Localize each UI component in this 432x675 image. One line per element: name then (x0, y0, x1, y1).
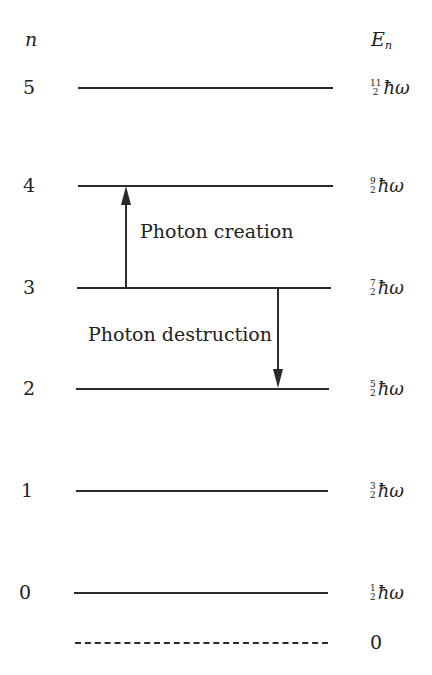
photon-creation-label: Photon creation (140, 220, 294, 242)
photon-creation-arrow-icon (121, 186, 131, 288)
photon-destruction-label: Photon destruction (88, 323, 272, 345)
photon-destruction-arrow-icon (273, 289, 283, 388)
